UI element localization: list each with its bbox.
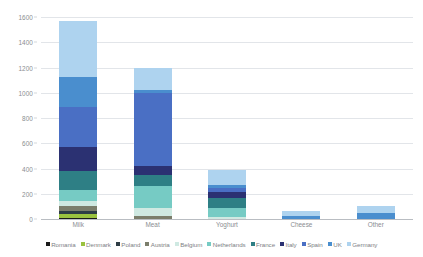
- bar-segment[interactable]: [59, 147, 97, 171]
- bar-segment[interactable]: [357, 213, 395, 219]
- y-tick-label: 1200: [18, 64, 33, 71]
- y-tick-mark: [34, 143, 37, 144]
- x-tick-label: Yoghurt: [216, 221, 238, 228]
- bar-stack[interactable]: [134, 68, 172, 219]
- x-tick-label: Meat: [145, 221, 159, 228]
- legend-item[interactable]: Denmark: [81, 241, 111, 248]
- y-tick-mark: [34, 92, 37, 93]
- stacked-bar-chart: 02004006008001000120014001600 MilkMeatYo…: [0, 0, 423, 257]
- y-tick-label: 600: [22, 140, 33, 147]
- y-tick-label: 1400: [18, 39, 33, 46]
- legend-swatch: [175, 242, 179, 246]
- y-tick-mark: [34, 67, 37, 68]
- legend-item[interactable]: Austria: [145, 241, 169, 248]
- bar-segment[interactable]: [208, 198, 246, 208]
- legend-label: Poland: [121, 241, 140, 248]
- legend-item[interactable]: UK: [328, 241, 342, 248]
- y-tick-mark: [34, 193, 37, 194]
- legend-swatch: [207, 242, 211, 246]
- bar-group[interactable]: [115, 17, 189, 219]
- legend-label: Germany: [352, 241, 377, 248]
- bar-segment[interactable]: [134, 93, 172, 166]
- y-tick-mark: [34, 118, 37, 119]
- legend-swatch: [116, 242, 120, 246]
- legend-swatch: [81, 242, 85, 246]
- y-axis: 02004006008001000120014001600: [0, 17, 37, 219]
- bar-group[interactable]: [339, 17, 413, 219]
- bar-segment[interactable]: [134, 186, 172, 209]
- bar-segment[interactable]: [208, 208, 246, 217]
- legend-item[interactable]: Belgium: [175, 241, 203, 248]
- bar-segment[interactable]: [59, 218, 97, 220]
- bar-group[interactable]: [41, 17, 115, 219]
- x-tick-label: Cheese: [290, 221, 312, 228]
- y-tick-mark: [34, 168, 37, 169]
- legend-swatch: [347, 242, 351, 246]
- y-tick-label: 200: [22, 190, 33, 197]
- plot-area: [41, 17, 413, 219]
- bar-segment[interactable]: [134, 175, 172, 186]
- legend-swatch: [46, 242, 50, 246]
- bar-group[interactable]: [264, 17, 338, 219]
- axis-baseline: [41, 219, 413, 220]
- y-tick-mark: [34, 42, 37, 43]
- legend-label: Belgium: [180, 241, 202, 248]
- chart-legend: RomaniaDenmarkPolandAustriaBelgiumNether…: [0, 238, 423, 250]
- bar-segment[interactable]: [59, 77, 97, 107]
- legend-item[interactable]: France: [251, 241, 275, 248]
- bar-group[interactable]: [190, 17, 264, 219]
- bar-stack[interactable]: [357, 206, 395, 219]
- bar-segment[interactable]: [59, 190, 97, 201]
- bar-segment[interactable]: [134, 166, 172, 175]
- legend-label: Denmark: [86, 241, 111, 248]
- bar-segment[interactable]: [134, 208, 172, 216]
- x-tick-label: Other: [368, 221, 384, 228]
- legend-label: Romania: [51, 241, 75, 248]
- legend-item[interactable]: Italy: [280, 241, 297, 248]
- legend-swatch: [280, 242, 284, 246]
- y-tick-label: 1000: [18, 89, 33, 96]
- y-tick-mark: [34, 219, 37, 220]
- legend-swatch: [302, 242, 306, 246]
- bar-segment[interactable]: [134, 216, 172, 219]
- y-tick-label: 400: [22, 165, 33, 172]
- legend-swatch: [328, 242, 332, 246]
- legend-swatch: [145, 242, 149, 246]
- y-tick-mark: [34, 17, 37, 18]
- bar-stack[interactable]: [59, 21, 97, 219]
- bar-segment[interactable]: [59, 21, 97, 77]
- y-tick-label: 800: [22, 115, 33, 122]
- legend-item[interactable]: Romania: [46, 241, 76, 248]
- legend-label: Netherlands: [213, 241, 246, 248]
- bar-stack[interactable]: [282, 211, 320, 219]
- bar-segment[interactable]: [59, 171, 97, 190]
- y-tick-label: 0: [29, 216, 33, 223]
- legend-label: Italy: [286, 241, 297, 248]
- bar-segment[interactable]: [59, 107, 97, 147]
- legend-swatch: [251, 242, 255, 246]
- bar-stack[interactable]: [208, 170, 246, 219]
- x-tick-label: Milk: [73, 221, 84, 228]
- legend-label: UK: [333, 241, 342, 248]
- legend-item[interactable]: Germany: [347, 241, 378, 248]
- bar-segment[interactable]: [208, 217, 246, 219]
- bar-segment[interactable]: [282, 216, 320, 219]
- legend-label: Spain: [307, 241, 323, 248]
- legend-label: Austria: [151, 241, 170, 248]
- bar-segment[interactable]: [208, 170, 246, 185]
- legend-label: France: [256, 241, 275, 248]
- legend-item[interactable]: Netherlands: [207, 241, 245, 248]
- x-axis: MilkMeatYoghurtCheeseOther: [41, 221, 413, 235]
- legend-item[interactable]: Poland: [116, 241, 140, 248]
- legend-item[interactable]: Spain: [302, 241, 323, 248]
- bar-segment[interactable]: [134, 68, 172, 91]
- y-tick-label: 1600: [18, 14, 33, 21]
